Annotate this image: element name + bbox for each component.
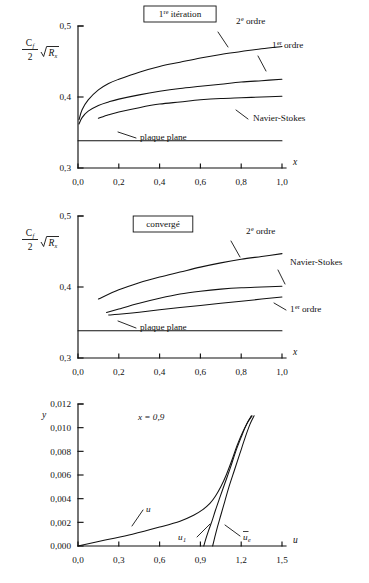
- y-tick-label: 0,012: [50, 399, 71, 409]
- y-tick-label: 0,4: [60, 282, 72, 292]
- annotation-second-order-leader: [231, 241, 240, 257]
- y-axis-denominator: 2: [28, 52, 33, 62]
- annotation-flat-plate-text: plaque plane: [140, 132, 187, 142]
- radical-content: Rx: [48, 48, 58, 59]
- x-axis-label: x: [292, 157, 298, 167]
- chart-title-text: x = 0,9: [137, 412, 165, 422]
- axes-chart-velocity-profile: 0,0000,0020,0040,0060,0080,0100,0120,00,…: [50, 399, 298, 565]
- x-axis-label: u: [293, 535, 298, 545]
- y-tick-label: 0,3: [60, 353, 72, 363]
- curve-1er-ordre: [109, 297, 282, 315]
- annotation-navier-stokes: Navier-Stokes: [278, 257, 343, 284]
- x-tick-label: 0,8: [235, 177, 247, 187]
- annotation-flat-plate-text: plaque plane: [140, 322, 187, 332]
- x-tick-label: 0,0: [72, 177, 84, 187]
- annotation-navier-stokes-leader: [278, 270, 285, 284]
- y-tick-label: 0,5: [60, 211, 72, 221]
- y-axis-label: Cf2Rx: [22, 38, 59, 62]
- annotation-ue-text: ue: [243, 532, 251, 543]
- annotation-navier-stokes-text: Navier-Stokes: [253, 113, 306, 123]
- annotation-u-text: u: [146, 504, 151, 514]
- y-axis-label-text: y: [41, 410, 47, 420]
- annotation-first-order-leader: [274, 303, 286, 310]
- annotation-u1-text: u1: [178, 532, 186, 543]
- y-axis-label: y: [41, 410, 47, 420]
- chart-title: convergé: [133, 216, 193, 232]
- x-tick-label: 1,0: [276, 367, 288, 377]
- x-tick-label: 0,0: [72, 555, 84, 565]
- annotation-second-order: 2e ordre: [218, 15, 265, 47]
- annotation-flat-plate-leader: [118, 132, 136, 138]
- annotation-second-order-text: 2e ordre: [236, 15, 265, 26]
- x-tick-label: 0,4: [154, 177, 166, 187]
- y-tick-label: 0,004: [50, 494, 71, 504]
- x-tick-label: 1,5: [276, 555, 288, 565]
- annotation-first-order-leader: [258, 56, 266, 71]
- annotation-ue: ue: [225, 525, 251, 543]
- curve-ue: [213, 416, 254, 546]
- x-tick-label: 0,9: [195, 555, 207, 565]
- x-tick-label: 0,3: [113, 555, 125, 565]
- x-tick-label: 0,2: [113, 177, 125, 187]
- annotation-navier-stokes-leader: [236, 110, 248, 119]
- y-tick-label: 0,4: [60, 92, 72, 102]
- axes-chart-first-iteration: 0,30,40,50,00,20,40,60,81,0x: [60, 21, 298, 187]
- radical-content: Rx: [48, 238, 58, 249]
- annotation-u-leader: [132, 510, 143, 526]
- x-tick-label: 0,6: [154, 555, 166, 565]
- x-tick-label: 0,8: [235, 367, 247, 377]
- x-tick-label: 0,6: [195, 367, 207, 377]
- x-tick-label: 1,2: [235, 555, 247, 565]
- annotation-second-order-leader: [218, 32, 228, 47]
- y-tick-label: 0,006: [50, 470, 71, 480]
- annotation-first-order: 1er ordre: [258, 39, 303, 71]
- chart-title: 1re itération: [144, 6, 216, 22]
- y-axis-denominator: 2: [28, 242, 33, 252]
- curve-2e-ordre: [79, 47, 282, 120]
- chart-title-text: convergé: [146, 219, 180, 229]
- chart-title: x = 0,9: [137, 412, 165, 422]
- annotation-flat-plate-leader: [118, 321, 136, 328]
- y-axis-label: Cf2Rx: [22, 228, 59, 252]
- x-tick-label: 0,0: [72, 367, 84, 377]
- y-tick-label: 0,010: [50, 423, 71, 433]
- y-axis-numerator: Cf: [26, 38, 36, 49]
- y-tick-label: 0,3: [60, 163, 72, 173]
- annotation-first-order-text: 1er ordre: [272, 39, 303, 50]
- chart-title-text: 1re itération: [159, 8, 202, 19]
- annotation-second-order-text: 2e ordre: [246, 225, 275, 236]
- figure-svg: 0,30,40,50,00,20,40,60,81,0xCf2Rx1re ité…: [0, 0, 369, 583]
- y-tick-label: 0,000: [50, 541, 71, 551]
- annotation-second-order: 2e ordre: [231, 225, 275, 257]
- annotation-u: u: [132, 504, 151, 526]
- y-tick-label: 0,5: [60, 21, 72, 31]
- y-axis-numerator: Cf: [26, 228, 36, 239]
- y-tick-label: 0,002: [50, 518, 71, 528]
- annotation-ue-leader: [225, 525, 240, 536]
- annotation-first-order-text: 1er ordre: [290, 303, 321, 314]
- y-tick-label: 0,008: [50, 447, 71, 457]
- x-tick-label: 0,6: [195, 177, 207, 187]
- x-axis-label: x: [292, 347, 298, 357]
- x-tick-label: 1,0: [276, 177, 288, 187]
- figure-root: 0,30,40,50,00,20,40,60,81,0xCf2Rx1re ité…: [0, 0, 369, 583]
- annotation-navier-stokes: Navier-Stokes: [236, 110, 306, 123]
- x-tick-label: 0,4: [154, 367, 166, 377]
- x-tick-label: 0,2: [113, 367, 125, 377]
- annotation-first-order: 1er ordre: [274, 303, 321, 314]
- axis-frame: [78, 404, 286, 546]
- annotation-navier-stokes-text: Navier-Stokes: [290, 257, 343, 267]
